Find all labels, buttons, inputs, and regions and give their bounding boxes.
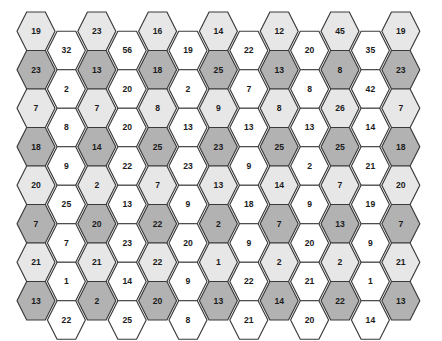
hex-grid-canvas: 1923718207211332289257122231371422021256… — [0, 0, 442, 341]
hex-cell-value: 21 — [31, 257, 41, 267]
hex-cell-value: 2 — [64, 84, 69, 94]
hex-cell-value: 9 — [186, 199, 191, 209]
hex-cell-value: 20 — [153, 296, 163, 306]
hex-cell-value: 9 — [368, 238, 373, 248]
hex-cell-value: 7 — [277, 219, 282, 229]
hex-cell-value: 25 — [214, 65, 224, 75]
hex-cell-value: 7 — [34, 219, 39, 229]
hex-cell-value: 20 — [122, 84, 132, 94]
hex-cell-value: 45 — [335, 26, 345, 36]
hex-cell-value: 25 — [122, 315, 132, 325]
hex-cell-value: 7 — [94, 103, 99, 113]
hex-cell-value: 23 — [122, 238, 132, 248]
hex-cell-value: 21 — [366, 161, 376, 171]
hex-cell-value: 9 — [307, 199, 312, 209]
hex-cell-value: 13 — [305, 122, 315, 132]
hex-cell-value: 13 — [183, 122, 193, 132]
hex-cell-value: 13 — [274, 65, 284, 75]
hex-cell-value: 21 — [92, 257, 102, 267]
hex-cell-value: 18 — [153, 65, 163, 75]
hex-cell-value: 23 — [92, 26, 102, 36]
hex-cell-value: 22 — [153, 219, 163, 229]
hex-cell-value: 35 — [366, 45, 376, 55]
hex-cell-value: 8 — [307, 84, 312, 94]
hex-cell-value: 2 — [94, 180, 99, 190]
hex-cell-value: 20 — [396, 180, 406, 190]
hex-cell-value: 7 — [155, 180, 160, 190]
hex-cell-value: 13 — [92, 65, 102, 75]
hex-cell-value: 14 — [366, 122, 376, 132]
hex-cell-value: 25 — [62, 199, 72, 209]
hex-cell-value: 22 — [122, 161, 132, 171]
hex-cell-value: 22 — [244, 45, 254, 55]
hex-cell-value: 20 — [305, 45, 315, 55]
hex-cell-value: 8 — [155, 103, 160, 113]
hex-cell-value: 14 — [274, 180, 284, 190]
hex-cell-value: 7 — [398, 219, 403, 229]
hex-cell-value: 22 — [335, 296, 345, 306]
hex-cell-value: 1 — [216, 257, 221, 267]
hex-cell-value: 18 — [31, 142, 41, 152]
hex-cell-value: 9 — [246, 161, 251, 171]
hex-cell-value: 7 — [64, 238, 69, 248]
hex-cell-value: 9 — [216, 103, 221, 113]
hex-cell-value: 8 — [338, 65, 343, 75]
hex-cell-value: 19 — [366, 199, 376, 209]
hex-cell-value: 13 — [214, 180, 224, 190]
hex-cell-value: 20 — [305, 315, 315, 325]
hex-cell-value: 32 — [62, 45, 72, 55]
hex-cell-value: 13 — [214, 296, 224, 306]
hex-cell-value: 1 — [368, 276, 373, 286]
hex-cell-value: 56 — [122, 45, 132, 55]
hex-cell-value: 23 — [183, 161, 193, 171]
hex-cell-value: 8 — [64, 122, 69, 132]
hex-cell-value: 21 — [396, 257, 406, 267]
hex-cell-group: 1923718207211332289257122231371422021256… — [17, 12, 420, 339]
hex-cell-value: 7 — [338, 180, 343, 190]
hex-cell-value: 19 — [31, 26, 41, 36]
hex-cell-value: 25 — [153, 142, 163, 152]
hex-cell-value: 9 — [186, 276, 191, 286]
hex-cell-value: 8 — [186, 315, 191, 325]
hex-grid-figure: 1923718207211332289257122231371422021256… — [0, 0, 442, 341]
hex-cell-value: 19 — [183, 45, 193, 55]
hex-cell-value: 2 — [338, 257, 343, 267]
hex-cell-value: 25 — [335, 142, 345, 152]
hex-cell-value: 2 — [186, 84, 191, 94]
hex-cell-value: 9 — [64, 161, 69, 171]
hex-cell-value: 18 — [244, 199, 254, 209]
hex-cell-value: 13 — [31, 296, 41, 306]
hex-cell-value: 1 — [64, 276, 69, 286]
hex-cell-value: 20 — [92, 219, 102, 229]
hex-cell-value: 7 — [246, 84, 251, 94]
hex-cell-value: 16 — [153, 26, 163, 36]
hex-cell-value: 20 — [31, 180, 41, 190]
hex-cell-value: 2 — [94, 296, 99, 306]
hex-cell-value: 21 — [244, 315, 254, 325]
hex-cell-value: 42 — [366, 84, 376, 94]
hex-cell-value: 22 — [62, 315, 72, 325]
hex-cell-value: 12 — [274, 26, 284, 36]
hex-cell-value: 21 — [305, 276, 315, 286]
hex-cell-value: 14 — [92, 142, 102, 152]
hex-cell-value: 13 — [244, 122, 254, 132]
hex-cell-value: 13 — [396, 296, 406, 306]
hex-cell-value: 25 — [274, 142, 284, 152]
hex-cell-value: 2 — [277, 257, 282, 267]
hex-cell-value: 7 — [398, 103, 403, 113]
hex-cell-value: 14 — [122, 276, 132, 286]
hex-cell-value: 8 — [277, 103, 282, 113]
hex-cell-value: 2 — [307, 161, 312, 171]
hex-cell-value: 14 — [214, 26, 224, 36]
hex-cell-value: 20 — [183, 238, 193, 248]
hex-cell-value: 7 — [34, 103, 39, 113]
hex-cell-value: 14 — [366, 315, 376, 325]
hex-cell-value: 9 — [246, 238, 251, 248]
hex-cell-value: 13 — [122, 199, 132, 209]
hex-cell-value: 23 — [214, 142, 224, 152]
hex-cell-value: 26 — [335, 103, 345, 113]
hex-cell-value: 23 — [31, 65, 41, 75]
hex-cell-value: 13 — [335, 219, 345, 229]
hex-cell-value: 20 — [305, 238, 315, 248]
hex-cell-value: 18 — [396, 142, 406, 152]
